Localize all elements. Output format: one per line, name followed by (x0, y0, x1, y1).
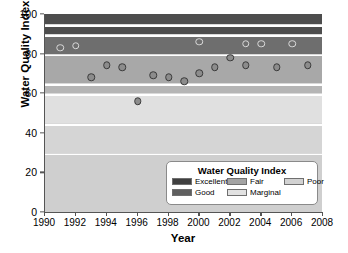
x-tick-mark (44, 212, 45, 216)
legend-item-fair: Fair (227, 177, 264, 186)
data-point (257, 40, 265, 48)
y-tick-mark (40, 172, 44, 173)
quality-band-excellent-0 (45, 14, 322, 24)
data-point (288, 40, 296, 48)
data-point (88, 74, 96, 82)
data-point (118, 64, 126, 72)
x-tick-label: 2008 (302, 217, 342, 228)
x-axis-title: Year (44, 232, 322, 244)
legend-item-marginal: Marginal (227, 188, 281, 197)
legend-item-poor: Poor (284, 177, 324, 186)
data-point (134, 97, 142, 105)
data-point (242, 40, 250, 48)
x-tick-mark (229, 212, 230, 216)
data-point (149, 72, 157, 80)
band-separator (45, 25, 322, 27)
legend-item-excellent: Excellent (172, 177, 227, 186)
data-point (227, 54, 235, 62)
x-tick-mark (291, 212, 292, 216)
x-tick-mark (137, 212, 138, 216)
y-tick-label: 80 (0, 48, 37, 60)
band-separator (45, 94, 322, 96)
y-tick-mark (40, 53, 44, 54)
legend-item-good: Good (172, 188, 215, 197)
chart-figure: Water Quality Index 020406080100 1990199… (0, 0, 348, 253)
band-separator (45, 154, 322, 156)
legend-swatch-excellent (172, 178, 192, 186)
legend-title: Water Quality Index (172, 165, 312, 176)
band-separator (45, 35, 322, 37)
x-tick-mark (322, 212, 323, 216)
quality-band-excellent-1 (45, 26, 322, 34)
data-point (273, 64, 281, 72)
y-tick-label: 20 (0, 166, 37, 178)
quality-band-good-2 (45, 36, 322, 54)
y-tick-label: 100 (0, 8, 37, 20)
legend-label: Marginal (250, 188, 281, 197)
x-tick-mark (198, 212, 199, 216)
quality-band-marginal-6 (45, 125, 322, 153)
y-tick-label: 40 (0, 127, 37, 139)
y-tick-mark (40, 132, 44, 133)
y-tick-mark (40, 13, 44, 14)
data-point (196, 38, 204, 46)
x-tick-mark (168, 212, 169, 216)
legend-swatch-good (172, 189, 192, 197)
quality-band-marginal-5 (45, 95, 322, 123)
data-point (72, 42, 80, 50)
legend-label: Fair (250, 177, 264, 186)
data-point (103, 62, 111, 70)
x-axis-line (44, 212, 322, 213)
y-tick-label: 60 (0, 87, 37, 99)
data-point (242, 62, 250, 70)
x-tick-mark (75, 212, 76, 216)
data-point (57, 44, 65, 52)
x-tick-mark (106, 212, 107, 216)
band-separator (45, 55, 322, 57)
legend-box: Water Quality Index ExcellentGoodFairMar… (166, 161, 318, 205)
legend-swatch-poor (284, 178, 304, 186)
y-tick-mark (40, 93, 44, 94)
data-point (180, 78, 188, 86)
band-separator (45, 124, 322, 126)
data-point (211, 64, 219, 72)
x-tick-mark (260, 212, 261, 216)
legend-swatch-marginal (227, 189, 247, 197)
legend-swatch-fair (227, 178, 247, 186)
legend-label: Good (195, 188, 215, 197)
data-point (304, 62, 312, 70)
legend-label: Poor (307, 177, 324, 186)
data-point (165, 74, 173, 82)
data-point (196, 70, 204, 78)
quality-band-fair-4 (45, 85, 322, 93)
legend-label: Excellent (195, 177, 227, 186)
